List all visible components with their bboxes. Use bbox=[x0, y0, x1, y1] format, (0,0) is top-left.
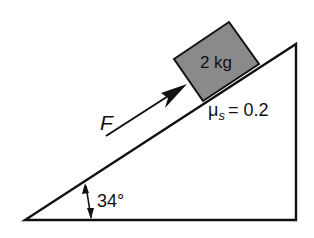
angle-arrow-head-up bbox=[82, 183, 89, 194]
mu-subscript: s bbox=[218, 108, 225, 123]
block-mass-label: 2 kg bbox=[200, 53, 232, 72]
incline-angle-label: 34° bbox=[97, 191, 124, 211]
incline-triangle bbox=[25, 44, 296, 220]
force-arrow-head bbox=[161, 84, 187, 108]
mu-value: = 0.2 bbox=[228, 100, 269, 120]
inclined-plane-diagram: 2 kg F μs= 0.2 34° bbox=[0, 0, 314, 238]
angle-arrow-head-down bbox=[87, 208, 94, 219]
force-label: F bbox=[100, 111, 114, 134]
mu-symbol: μ bbox=[208, 100, 218, 120]
friction-coefficient-label: μs= 0.2 bbox=[208, 100, 268, 123]
